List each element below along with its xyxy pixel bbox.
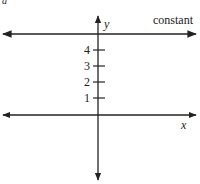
x-axis-label: x	[180, 118, 187, 132]
y-axis-label: y	[103, 17, 110, 31]
tick-label-1: 1	[84, 91, 90, 105]
tick-label-4: 4	[84, 43, 90, 57]
constant-label: constant	[153, 13, 194, 27]
partial-label: a	[2, 0, 7, 6]
y-ticks: 1 2 3 4	[84, 43, 105, 105]
tick-label-3: 3	[84, 59, 90, 73]
coordinate-plane: a constant x y 1 2 3 4	[0, 0, 200, 184]
tick-label-2: 2	[84, 75, 90, 89]
